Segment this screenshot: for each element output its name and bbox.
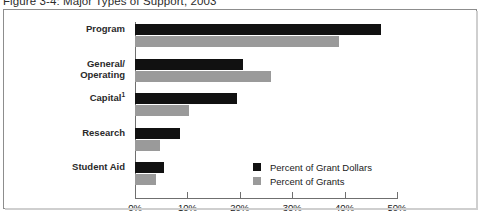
bar-grants <box>135 140 160 151</box>
category-label-text: Capital1 <box>13 92 125 103</box>
x-tick-label: 30% <box>283 202 302 213</box>
legend-label: Percent of Grants <box>270 176 344 187</box>
x-tick-label: 20% <box>230 202 249 213</box>
category-label-text: Student Aid <box>13 161 125 172</box>
figure-title: Figure 3-4: Major Types of Support, 2003 <box>3 0 216 8</box>
x-tick-label: 10% <box>178 202 197 213</box>
bar-dollars <box>135 93 237 104</box>
bar-grants <box>135 36 339 47</box>
x-tick-label: 50% <box>387 202 406 213</box>
x-tick-label: 40% <box>335 202 354 213</box>
legend-swatch-icon <box>253 163 261 171</box>
category-label-text: Research <box>13 127 125 138</box>
bar-dollars <box>135 59 243 70</box>
bar-grants <box>135 174 156 185</box>
bar-grants <box>135 71 271 82</box>
x-tick-label: 0% <box>128 202 142 213</box>
category-label-text: General/ Operating <box>13 58 125 80</box>
chart-legend: Percent of Grant DollarsPercent of Grant… <box>253 161 372 189</box>
chart-frame: 0%10%20%30%40%50% ProgramGeneral/ Operat… <box>3 9 477 209</box>
bar-dollars <box>135 162 164 173</box>
category-label-text: Program <box>13 23 125 34</box>
bar-grants <box>135 105 189 116</box>
x-tick-mark <box>397 192 398 198</box>
legend-label: Percent of Grant Dollars <box>270 162 372 173</box>
figure-container: Figure 3-4: Major Types of Support, 2003… <box>0 0 483 213</box>
x-axis-line <box>135 198 398 199</box>
legend-swatch-icon <box>253 177 261 185</box>
bar-dollars <box>135 24 381 35</box>
bar-dollars <box>135 128 180 139</box>
legend-item-grants: Percent of Grants <box>253 175 372 187</box>
legend-item-dollars: Percent of Grant Dollars <box>253 161 372 173</box>
